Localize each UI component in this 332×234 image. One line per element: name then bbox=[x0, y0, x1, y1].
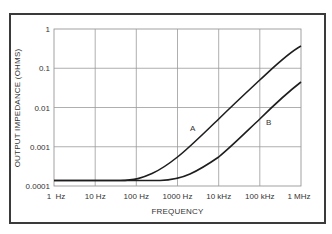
series-label-b: B bbox=[266, 118, 271, 127]
y-tick-0.01: 0.01 bbox=[34, 104, 50, 113]
x-tick-10hz: 10 Hz bbox=[85, 192, 106, 201]
x-tick-1hz: 1 Hz bbox=[47, 192, 66, 201]
series-label-a: A bbox=[190, 124, 196, 133]
x-tick-100khz: 100 kHz bbox=[245, 192, 274, 201]
x-tick-labels: 1 Hz 10 Hz 100 Hz 1000 Hz 10 kHz 100 kHz… bbox=[47, 192, 311, 201]
y-tick-0.001: 0.001 bbox=[30, 143, 51, 152]
grid bbox=[54, 29, 301, 186]
y-axis-label: OUTPUT IMPEDANCE (OHMS) bbox=[13, 49, 22, 168]
y-tick-0.1: 0.1 bbox=[39, 64, 51, 73]
x-tick-1000hz: 1000 Hz bbox=[163, 192, 193, 201]
x-tick-10khz: 10 kHz bbox=[206, 192, 231, 201]
x-tick-100hz: 100 Hz bbox=[124, 192, 149, 201]
x-tick-1mhz: 1 MHz bbox=[287, 192, 310, 201]
y-tick-labels: 1 0.1 0.01 0.001 0.0001 bbox=[26, 25, 51, 191]
impedance-chart: A B 1 0.1 0.01 0.001 0.0001 1 Hz 10 Hz 1… bbox=[0, 0, 332, 234]
y-tick-0.0001: 0.0001 bbox=[26, 182, 51, 191]
y-tick-1: 1 bbox=[46, 25, 51, 34]
x-axis-label: FREQUENCY bbox=[151, 207, 203, 216]
